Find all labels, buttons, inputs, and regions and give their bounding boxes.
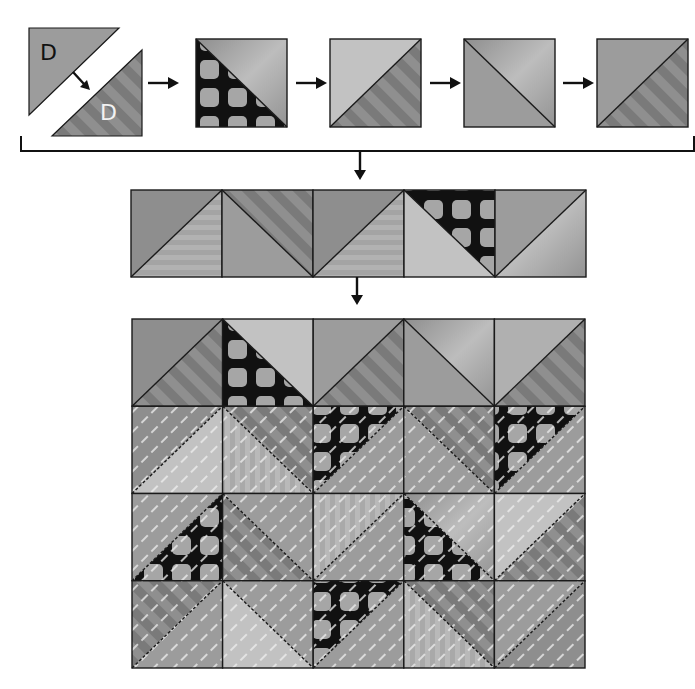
top-block-2: [330, 39, 421, 127]
quilt-cell: [132, 494, 223, 581]
quilt-cell: [313, 319, 404, 406]
quilt-cell: [404, 319, 495, 406]
arrow-right-icon: [148, 77, 179, 89]
top-block-3: [464, 39, 555, 127]
bracket: [21, 136, 694, 151]
top-block-1: [196, 39, 287, 127]
arrow-right-icon: [296, 77, 327, 89]
quilt-grid: [132, 319, 585, 668]
step1-triangles: D D: [29, 28, 142, 136]
triangle-d-top-label: D: [40, 40, 57, 65]
strip-block-3: [313, 190, 404, 277]
top-block-4: [597, 39, 688, 127]
strip-block-2: [222, 190, 313, 277]
quilt-cell: [313, 581, 404, 668]
arrow-down-icon: [354, 151, 366, 180]
quilt-cell: [223, 406, 314, 493]
quilt-cell: [494, 494, 585, 581]
strip-block-5: [495, 190, 586, 277]
arrow-right-icon: [563, 77, 594, 89]
strip-block-4: [404, 190, 495, 277]
quilt-cell: [494, 319, 585, 406]
quilt-cell: [132, 406, 223, 493]
triangle-d-bottom-label: D: [100, 100, 117, 125]
quilt-cell: [223, 319, 314, 406]
quilt-cell: [223, 581, 314, 668]
quilt-cell: [404, 581, 495, 668]
quilt-cell: [132, 319, 223, 406]
quilt-cell: [404, 406, 495, 493]
strip-row: [131, 190, 586, 277]
arrow-right-icon: [430, 77, 461, 89]
quilt-cell: [313, 406, 404, 493]
quilt-cell: [494, 581, 585, 668]
arrow-diagonal-icon: [73, 72, 90, 90]
arrow-down-icon: [351, 277, 363, 305]
assembly-diagram: D D: [0, 0, 695, 689]
strip-block-1: [131, 190, 222, 277]
quilt-cell: [223, 494, 314, 581]
quilt-cell: [132, 581, 223, 668]
quilt-cell: [313, 494, 404, 581]
quilt-cell: [404, 494, 495, 581]
quilt-cell: [494, 406, 585, 493]
